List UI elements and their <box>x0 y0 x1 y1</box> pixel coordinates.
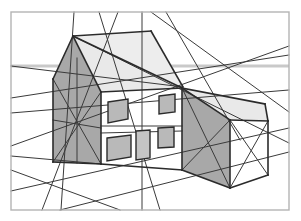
edge-wing-top-back <box>230 120 268 121</box>
window-upper-right <box>159 94 175 114</box>
window-lower-right <box>158 127 174 148</box>
window-lower-left <box>107 135 131 161</box>
perspective-scene <box>0 0 301 221</box>
perspective-drawing-canvas <box>0 0 301 221</box>
window-upper-left <box>108 99 128 123</box>
window-center-door <box>136 130 150 160</box>
